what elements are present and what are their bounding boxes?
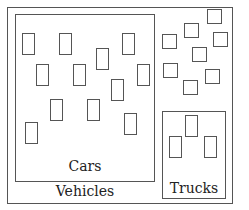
car-item — [50, 99, 63, 121]
car-item — [22, 33, 35, 55]
truck-item — [169, 136, 182, 158]
car-item — [25, 122, 38, 144]
vehicles-label: Vehicles — [15, 183, 155, 199]
car-item — [122, 33, 135, 55]
car-item — [73, 64, 86, 86]
vehicle-item — [184, 23, 199, 38]
vehicle-item — [183, 80, 198, 95]
truck-item — [185, 115, 198, 137]
car-item — [96, 48, 109, 70]
car-item — [137, 64, 150, 86]
vehicle-item — [162, 34, 177, 49]
vehicle-item — [207, 9, 222, 24]
car-item — [124, 113, 137, 135]
truck-item — [204, 136, 217, 158]
car-item — [111, 79, 124, 101]
vehicle-item — [163, 63, 178, 78]
car-item — [59, 33, 72, 55]
car-item — [36, 64, 49, 86]
vehicle-item — [205, 69, 220, 84]
cars-label: Cars — [15, 158, 155, 174]
vehicle-item — [192, 47, 207, 62]
trucks-label: Trucks — [162, 180, 226, 196]
vehicle-item — [213, 32, 228, 47]
car-item — [87, 99, 100, 121]
